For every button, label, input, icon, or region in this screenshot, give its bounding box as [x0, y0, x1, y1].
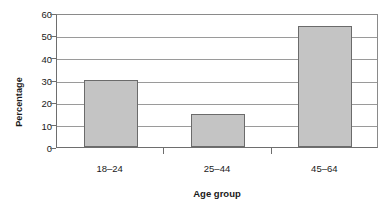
y-axis-tick-label: 20	[18, 99, 52, 108]
y-axis-tick-label: 60	[18, 10, 52, 19]
y-axis-tick-label: 0	[18, 144, 52, 153]
x-axis-title: Age group	[56, 188, 378, 199]
x-axis-tick-mark	[271, 148, 272, 154]
x-axis-tick-label: 18–24	[60, 163, 160, 174]
y-axis-tick-label: 40	[18, 55, 52, 64]
x-axis-tick-mark	[163, 148, 164, 154]
y-axis-tick-label: 30	[18, 77, 52, 86]
plot-area	[56, 14, 378, 148]
bar	[191, 114, 245, 148]
bar-chart-figure: Percentage 0102030405060 18–2425–4445–64…	[0, 0, 392, 214]
x-axis-tick-label: 25–44	[167, 163, 267, 174]
y-axis-tick-label: 50	[18, 32, 52, 41]
bar	[298, 26, 352, 147]
y-axis-tick-label: 10	[18, 122, 52, 131]
x-axis-tick-label: 45–64	[274, 163, 374, 174]
bar	[84, 80, 138, 147]
